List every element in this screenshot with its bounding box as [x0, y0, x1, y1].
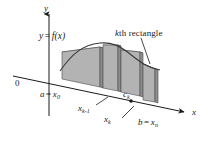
rectangle-4-front — [143, 64, 155, 102]
right-endpoint-subscript: n — [155, 122, 158, 128]
sample-point-ck-marker — [129, 99, 133, 103]
function-label-equals: = — [43, 31, 51, 41]
origin-label: 0 — [15, 79, 20, 88]
xk-minus-1-subscript: k-1 — [82, 108, 90, 114]
rectangle-2 — [103, 45, 121, 92]
y-axis-label: y — [44, 4, 48, 13]
ck-label: ck — [123, 90, 130, 100]
rectangle-4-side — [155, 69, 158, 103]
xk-label: xk — [104, 115, 111, 125]
function-label: y=f(x) — [39, 32, 65, 42]
rectangle-2-side — [118, 45, 121, 92]
left-endpoint-subscript: 0 — [57, 94, 60, 100]
ck-subscript: k — [127, 94, 130, 100]
xk-minus-1-label: xk-1 — [78, 104, 90, 114]
right-endpoint-b: b — [138, 117, 143, 127]
left-endpoint-equals: = — [45, 89, 53, 99]
x-axis-label: x — [192, 108, 196, 117]
rectangle-3-side — [140, 52, 143, 97]
riemann-sum-figure: y x 0 y=f(x) kth rectangle a=x0 xk-1 xk … — [0, 0, 203, 141]
left-endpoint-label: a=x0 — [40, 90, 60, 100]
leader-xk-minus-1 — [96, 97, 108, 105]
rectangle-2-front — [103, 45, 118, 91]
rectangle-4 — [143, 64, 158, 103]
function-label-rhs: f(x) — [52, 31, 66, 41]
rectangle-1-side — [100, 47, 103, 88]
right-endpoint-equals: = — [143, 117, 151, 127]
xk-subscript: k — [108, 119, 111, 125]
rectangle-1 — [62, 47, 103, 88]
figure-canvas — [0, 0, 203, 141]
riemann-rectangles — [62, 45, 158, 103]
left-endpoint-a: a — [40, 89, 45, 99]
leader-xk — [122, 106, 134, 118]
right-endpoint-label: b=xn — [138, 118, 158, 128]
rectangle-1-front — [62, 47, 100, 87]
kth-rectangle-label: kth rectangle — [115, 29, 163, 38]
kth-rectangle-text: th rectangle — [119, 28, 162, 38]
